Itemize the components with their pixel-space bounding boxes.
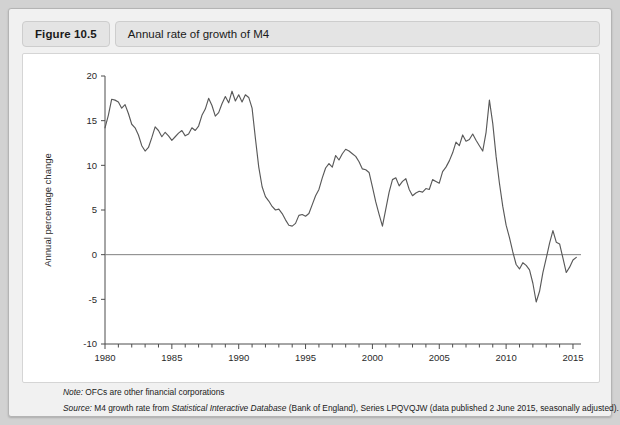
figure-title: Annual rate of growth of M4 (115, 21, 600, 47)
axes-layer: 20151050-5-10198019851990199520002005201… (42, 70, 584, 363)
y-axis-title: Annual percentage change (42, 153, 53, 267)
y-tick-label: 20 (86, 70, 97, 81)
x-tick-label: 2000 (362, 352, 383, 363)
y-tick-label: -10 (83, 338, 97, 349)
figure-header: Figure 10.5 Annual rate of growth of M4 (22, 21, 600, 47)
x-tick-label: 2015 (562, 352, 583, 363)
source-label: Source: (63, 403, 92, 413)
y-tick-label: -5 (89, 294, 97, 305)
x-tick-label: 1980 (94, 352, 115, 363)
x-tick-label: 1995 (295, 352, 316, 363)
x-tick-label: 2010 (496, 352, 517, 363)
x-tick-label: 2005 (429, 352, 450, 363)
data-series-line-0 (105, 91, 576, 302)
series-layer (105, 91, 576, 302)
source-text-post: (Bank of England), Series LPQVQJW (data … (286, 403, 618, 413)
y-tick-label: 0 (92, 249, 97, 260)
figure-number: Figure 10.5 (22, 21, 110, 47)
note-text: OFCs are other financial corporations (83, 387, 225, 397)
y-tick-label: 10 (86, 160, 97, 171)
source-text-pre: M4 growth rate from (92, 403, 172, 413)
chart-plot-panel: 20151050-5-10198019851990199520002005201… (22, 53, 600, 383)
note-line: Note: OFCs are other financial corporati… (63, 387, 608, 398)
x-tick-label: 1985 (161, 352, 182, 363)
footnotes: Note: OFCs are other financial corporati… (63, 387, 608, 420)
x-tick-label: 1990 (228, 352, 249, 363)
figure-page: Figure 10.5 Annual rate of growth of M4 … (0, 0, 620, 425)
y-tick-label: 15 (86, 115, 97, 126)
source-database-name: Statistical Interactive Database (171, 403, 286, 413)
figure-card: Figure 10.5 Annual rate of growth of M4 … (8, 8, 612, 417)
y-tick-label: 5 (92, 204, 97, 215)
m4-growth-line-chart: 20151050-5-10198019851990199520002005201… (23, 54, 599, 382)
note-label: Note: (63, 387, 83, 397)
source-line: Source: M4 growth rate from Statistical … (63, 403, 608, 414)
